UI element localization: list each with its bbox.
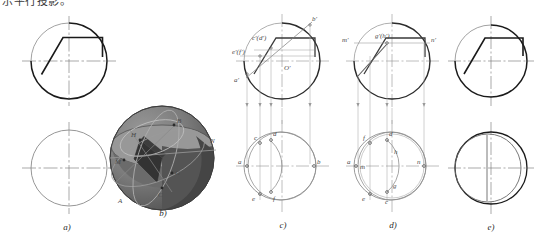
caption-d: d) [378,220,408,230]
label-H: H [130,131,137,139]
circle-arc-thin [244,23,282,61]
point-C [161,187,164,190]
label-e: e [362,195,365,203]
caption-b: b) [148,208,178,218]
label-a-prime: a' [234,76,240,84]
panel-e: e) [444,14,538,219]
label-cd-prime: c'(d') [252,34,267,42]
projection-lines [247,25,310,200]
arrowhead-b [308,103,311,107]
point-B [173,124,176,127]
sphere-shading-group [111,122,214,210]
caption-c: c) [268,220,298,230]
label-c: c [254,134,258,142]
panel-d-front-view: m' g'(h') n' [342,14,440,108]
label-g: g [393,182,397,190]
projection-arrowheads [356,103,425,107]
figure-container: 示平行投影。 a) [0,0,539,249]
label-gh-prime: g'(h') [375,32,390,40]
panel-d-top-view: a m f d h n e c g [346,120,440,212]
arrowhead-a [245,103,248,107]
label-m: m [360,163,365,171]
caption-e: e) [476,222,506,232]
label-h: h [394,148,398,156]
projection-arrowheads [245,103,311,107]
label-b-prime: b' [312,15,318,23]
label-e: e [252,195,255,203]
label-b: b [317,158,321,166]
label-M: M [114,158,122,166]
label-B: B [177,117,182,125]
arrowhead-cd [269,103,272,107]
label-ef-prime: e'(f') [232,48,245,56]
circle-arc-thin [31,23,69,61]
label-G: G [175,169,180,177]
label-C: C [158,191,163,199]
arrowhead-n [422,103,425,107]
label-n: n [417,158,421,166]
construction-line-a-gh [358,44,387,76]
panel-d: m' g'(h') n' [336,12,448,222]
label-d: d [389,130,393,138]
cut-outline [464,38,523,74]
label-n-prime: n' [431,36,437,44]
panel-a-front-view [22,16,116,106]
label-N: N [209,137,215,145]
top-note-text: 示平行投影。 [2,0,71,8]
cut-outline [364,38,425,74]
arrowhead-gh [385,103,388,107]
panel-c: b' c'(d') e'(f') a' O' [226,12,338,222]
point-G [171,172,174,175]
panel-e-top-view [448,122,534,214]
label-a: a [347,158,351,166]
label-m-prime: m' [342,36,349,44]
label-a: a [238,158,242,166]
panel-c-top-view: a b c d e f [236,120,330,212]
label-o-prime: O' [284,64,291,72]
arrowhead-a [356,103,359,107]
panel-b: H B C G M N A b) [100,96,230,216]
circle-arc-thin [455,25,491,61]
panel-e-front-view [448,16,534,106]
point-M [123,159,126,162]
panel-c-front-view: b' c'(d') e'(f') a' O' [232,14,330,108]
label-c: c [385,198,389,206]
point-H [139,139,142,142]
caption-a: a) [52,222,82,232]
arrowhead-ef [258,103,261,107]
label-A: A [117,197,123,205]
label-d: d [273,130,277,138]
cut-outline [42,38,103,75]
